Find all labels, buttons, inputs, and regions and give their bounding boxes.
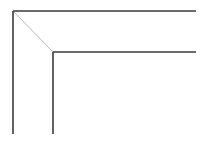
drawing-canvas <box>0 0 208 142</box>
canvas-background <box>0 0 208 142</box>
frame-corner-illustration <box>0 0 208 142</box>
